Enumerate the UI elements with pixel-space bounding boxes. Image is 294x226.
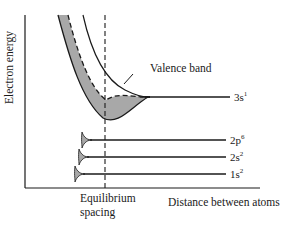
level-3s-base: 3s xyxy=(234,91,244,103)
valence-band-pointer xyxy=(124,74,133,84)
level-label-1s: 1s2 xyxy=(230,168,243,180)
level-2p xyxy=(82,132,226,148)
level-1s xyxy=(75,166,226,182)
level-2p-sup: 6 xyxy=(241,133,245,141)
level-2s-base: 2s xyxy=(230,151,240,163)
y-axis-label: Electron energy xyxy=(4,31,16,104)
level-1s-base: 1s xyxy=(230,168,240,180)
level-label-2p: 2p6 xyxy=(230,134,245,146)
level-1s-sup: 2 xyxy=(240,167,244,175)
equilibrium-label-line1: Equilibrium xyxy=(80,193,136,205)
x-axis-label: Distance between atoms xyxy=(168,197,280,209)
level-label-3s: 3s1 xyxy=(234,91,247,103)
level-2s xyxy=(79,149,226,165)
equilibrium-label-line2: spacing xyxy=(80,207,115,219)
level-label-2s: 2s2 xyxy=(230,151,243,163)
level-2p-base: 2p xyxy=(230,134,241,146)
band-upper-boundary-dashed xyxy=(68,15,148,100)
level-3s-sup: 1 xyxy=(244,90,248,98)
valence-band-label: Valence band xyxy=(150,63,212,75)
energy-band-diagram xyxy=(0,0,294,226)
level-2s-sup: 2 xyxy=(240,150,244,158)
